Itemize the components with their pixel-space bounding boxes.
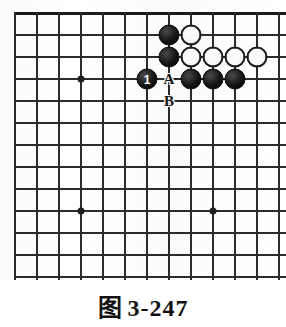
grid-line-horizontal: [14, 166, 286, 168]
go-board: 1 AB: [0, 0, 286, 280]
stone-black: [159, 47, 180, 68]
grid-line-horizontal: [14, 188, 286, 190]
grid-line-vertical: [146, 12, 148, 280]
stone-white: [181, 25, 202, 46]
grid-line-horizontal: [14, 34, 286, 36]
paper-texture-overlay: [0, 0, 286, 280]
stone-white: [247, 47, 268, 68]
stone-white: [225, 47, 246, 68]
stone-white: [203, 47, 224, 68]
go-board-container: 1 AB: [0, 0, 286, 280]
grid-line-horizontal: [14, 100, 286, 102]
stone-black: [203, 69, 224, 90]
caption-number: 3-247: [128, 295, 189, 321]
grid-line-horizontal: [14, 122, 286, 124]
grid-line-vertical: [124, 12, 126, 280]
caption-label: 图: [98, 295, 123, 321]
point-label-a: A: [164, 72, 175, 87]
star-point: [78, 76, 85, 83]
go-figure: 1 AB 图3-247: [0, 0, 286, 327]
figure-caption: 图3-247: [0, 288, 286, 323]
grid-line-vertical: [14, 12, 16, 280]
stone-black-numbered: 1: [137, 69, 158, 90]
grid-line-horizontal: [14, 12, 286, 15]
grid-line-horizontal: [14, 232, 286, 234]
grid-line-horizontal: [14, 254, 286, 256]
grid-line-vertical: [36, 12, 38, 280]
grid-line-vertical: [278, 12, 280, 280]
star-point: [210, 208, 217, 215]
stone-black: [181, 69, 202, 90]
grid-line-horizontal: [14, 210, 286, 212]
point-label-b: B: [164, 94, 174, 109]
stone-move-number: 1: [144, 73, 151, 85]
grid-line-horizontal: [14, 144, 286, 146]
stone-white: [181, 47, 202, 68]
stone-black: [159, 25, 180, 46]
grid-line-vertical: [102, 12, 104, 280]
stone-black: [225, 69, 246, 90]
grid-line-vertical: [58, 12, 60, 280]
star-point: [78, 208, 85, 215]
grid-line-horizontal: [14, 276, 286, 278]
grid-line-vertical: [80, 12, 82, 280]
